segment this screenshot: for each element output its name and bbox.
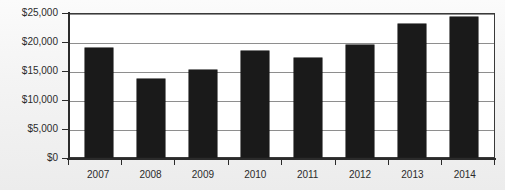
bar-slot [125,14,177,157]
bar-slot [229,14,281,157]
bar-2009 [189,70,217,157]
x-axis-label-2014: 2014 [439,169,491,181]
plot-area [68,13,495,158]
x-axis-label-2011: 2011 [282,169,334,181]
bar-2013 [398,24,426,157]
bar-slot [282,14,334,157]
x-axis-label-2007: 2007 [72,169,124,181]
x-tick-mark-8 [494,159,495,165]
x-axis-label-2013: 2013 [386,169,438,181]
y-tick-mark-25000 [62,13,70,14]
bar-slot [386,14,438,157]
x-tick-mark-1 [121,159,122,165]
bar-2008 [137,79,165,157]
y-axis-label-5000: $5,000 [0,124,58,134]
y-tick-mark-10000 [62,100,70,101]
bar-2010 [241,51,269,157]
bar-slot [334,14,386,157]
y-tick-mark-5000 [62,129,70,130]
y-axis-label-25000: $25,000 [0,8,58,18]
x-tick-mark-0 [68,159,69,165]
y-tick-mark-15000 [62,71,70,72]
x-tick-mark-5 [335,159,336,165]
x-tick-mark-3 [228,159,229,165]
x-axis-label-2008: 2008 [124,169,176,181]
y-axis-label-0: $0 [0,153,58,163]
x-tick-mark-4 [281,159,282,165]
y-tick-mark-20000 [62,42,70,43]
bar-chart: $25,000 $20,000 $15,000 $10,000 $5,000 $… [0,0,505,190]
y-axis-label-15000: $15,000 [0,66,58,76]
bar-2007 [85,48,113,157]
y-axis-label-20000: $20,000 [0,37,58,47]
x-axis-label-2012: 2012 [334,169,386,181]
bar-2014 [450,17,478,157]
bar-slot [73,14,125,157]
bars-layer [69,14,494,157]
y-axis-line [68,12,70,160]
bar-2012 [346,45,374,157]
x-tick-mark-6 [388,159,389,165]
bar-slot [177,14,229,157]
x-tick-mark-7 [441,159,442,165]
y-axis-label-10000: $10,000 [0,95,58,105]
x-axis-label-2010: 2010 [229,169,281,181]
x-tick-mark-2 [174,159,175,165]
x-axis-label-2009: 2009 [177,169,229,181]
x-axis-labels: 2007 2008 2009 2010 2011 2012 2013 2014 [68,169,495,181]
bar-slot [438,14,490,157]
bar-2011 [294,58,322,157]
